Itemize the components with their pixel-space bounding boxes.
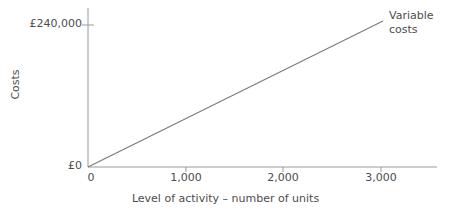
y-tick-label-240000: £240,000 <box>30 18 83 29</box>
y-tick-label-0: £0 <box>68 160 82 171</box>
x-axis-title: Level of activity – number of units <box>0 192 451 205</box>
series-label-line-1: Variable <box>389 9 434 23</box>
x-tick-label-3000: 3,000 <box>365 172 397 183</box>
variable-costs-chart: £240,000 £0 0 1,000 2,000 3,000 Level of… <box>0 0 451 212</box>
x-tick-label-0: 0 <box>88 172 95 183</box>
series-label-line-2: costs <box>389 23 434 37</box>
y-axis-title: Costs <box>9 50 22 120</box>
variable-costs-series-line <box>88 21 383 167</box>
x-tick-label-1000: 1,000 <box>170 172 202 183</box>
series-label-variable-costs: Variable costs <box>389 9 434 37</box>
x-tick-label-2000: 2,000 <box>267 172 299 183</box>
